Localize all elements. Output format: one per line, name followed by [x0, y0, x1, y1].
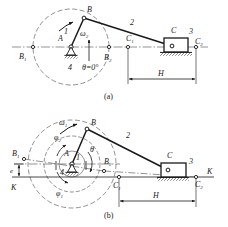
label-b-point-B1: B1: [12, 149, 19, 159]
point-c1-b: [117, 175, 120, 178]
label-b-link-crank: 1: [76, 153, 80, 162]
label-a-dim-H: H: [157, 69, 165, 78]
label-a-point-C2: C2: [195, 37, 203, 47]
label-a-link-slider: 3: [188, 27, 193, 36]
label-b-point-B2: B2: [104, 157, 112, 167]
slider-block-a: [164, 38, 188, 52]
point-b1-b: [22, 157, 25, 160]
label-b-omega1: ω1: [59, 118, 67, 128]
panel-b: A B B1 B2 C C1 C2 1 2 3 4 ω1 φ2 φ1 θ H: [10, 118, 214, 208]
label-b-link-frame: 4: [60, 168, 64, 177]
label-b-dim-H: H: [152, 191, 160, 200]
slider-block-b: [161, 163, 186, 177]
joint-b-b: [85, 127, 89, 131]
panel-a: A B B1 B2 C C1 C2 1 2 3 4 ω2 θ=0° H: [12, 5, 208, 85]
label-b-phi2: φ2: [54, 133, 61, 143]
label-b-eccentricity: e: [10, 167, 13, 175]
joint-b-a: [82, 16, 86, 20]
label-a-point-B1: B1: [19, 52, 26, 62]
label-a-point-A: A: [57, 34, 63, 43]
caption-b: (b): [104, 211, 114, 220]
label-b-link-coupler: 2: [126, 131, 130, 140]
label-b-point-B: B: [91, 118, 96, 127]
point-c1-a: [126, 45, 129, 48]
label-a-point-B: B: [87, 5, 92, 14]
point-b1-a: [31, 45, 34, 48]
joint-c-a: [170, 44, 174, 48]
point-b2-a: [107, 45, 110, 48]
label-b-point-C1: C1: [113, 181, 121, 191]
label-b-axis-k-right: K: [206, 167, 213, 176]
label-b-phi1: φ1: [56, 189, 63, 199]
label-b-theta: θ: [90, 145, 94, 154]
slider-guide-hatch-b: [157, 177, 189, 180]
point-c2-b: [194, 175, 197, 178]
joint-c-b: [166, 168, 170, 172]
pivot-a-ground-hatch-b: [66, 172, 79, 175]
figure-canvas: A B B1 B2 C C1 C2 1 2 3 4 ω2 θ=0° H (a): [0, 0, 228, 227]
pivot-a-ground-hatch: [65, 55, 78, 58]
label-a-link-crank: 1: [64, 27, 68, 36]
label-a-link-frame: 4: [68, 63, 72, 72]
pivot-a-triangle-b: [68, 164, 77, 172]
label-a-omega2: ω2: [80, 29, 89, 39]
label-b-axis-k-left: K: [10, 183, 17, 192]
label-b-point-C2: C2: [195, 180, 203, 190]
label-b-point-C: C: [167, 151, 173, 160]
caption-a: (a): [104, 92, 113, 101]
label-a-theta: θ=0°: [82, 63, 99, 72]
label-a-point-C: C: [171, 26, 177, 35]
slider-guide-hatch-a: [160, 52, 192, 55]
label-a-point-B2: B2: [104, 53, 112, 63]
label-b-link-slider: 3: [188, 157, 193, 166]
point-b2-b: [102, 169, 105, 172]
label-b-point-A: A: [63, 149, 69, 158]
label-a-point-C1: C1: [126, 34, 134, 44]
label-a-link-coupler: 2: [130, 18, 134, 27]
pivot-a-triangle: [67, 47, 76, 55]
